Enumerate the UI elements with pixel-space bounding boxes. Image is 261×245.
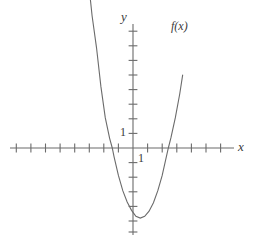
function-curve-fx xyxy=(88,0,183,218)
y-axis-label: y xyxy=(121,10,127,23)
y-axis-unit-tick-label: 1 xyxy=(120,126,126,138)
x-axis-label: x xyxy=(238,140,244,153)
graph-figure: y x f(x) 1 1 xyxy=(0,0,261,245)
x-axis-unit-tick-label: 1 xyxy=(138,152,144,164)
curve-label-fx: f(x) xyxy=(171,20,188,32)
coordinate-plane-svg xyxy=(0,0,261,245)
